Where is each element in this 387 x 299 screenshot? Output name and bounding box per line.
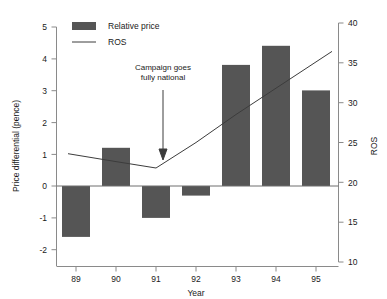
y2-axis-title: ROS (369, 136, 379, 155)
x-axis: 89 90 91 92 93 94 95 Year (57, 267, 339, 299)
legend-label-relative-price: Relative price (108, 21, 160, 31)
x-tick-label: 92 (191, 274, 201, 284)
left-axis-ticks (52, 27, 57, 250)
right-tick-label: 20 (348, 178, 358, 188)
x-tick-label: 91 (151, 274, 161, 284)
x-tick-label: 89 (71, 274, 81, 284)
legend: Relative price ROS (72, 21, 160, 47)
x-tick-label: 93 (231, 274, 241, 284)
right-tick-label: 35 (348, 58, 358, 68)
left-tick-label: 4 (42, 54, 47, 64)
left-tick-label: 1 (42, 150, 47, 160)
x-axis-title: Year (187, 288, 204, 298)
bar-93 (222, 65, 250, 186)
annotation-arrow-icon (159, 90, 167, 160)
bar-92 (182, 186, 210, 196)
left-tick-label: 5 (42, 22, 47, 32)
right-axis: 40 35 30 25 20 15 10 ROS (339, 18, 380, 267)
left-tick-label: 2 (42, 118, 47, 128)
left-tick-label: -2 (39, 245, 47, 255)
left-tick-label: -1 (39, 213, 47, 223)
right-axis-ticks (339, 23, 344, 262)
bar-90 (102, 148, 130, 186)
left-axis: 5 4 3 2 1 0 -1 -2 Price differential (pe… (11, 22, 57, 266)
x-tick-label: 94 (271, 274, 281, 284)
y-axis-title: Price differential (pence) (11, 100, 21, 192)
bar-91 (142, 186, 170, 218)
bar-89 (62, 186, 90, 237)
bar-series-relative-price (62, 46, 330, 237)
annotation-line-2: fully national (141, 73, 186, 82)
left-tick-label: 0 (42, 181, 47, 191)
bar-94 (262, 46, 290, 186)
x-axis-ticks (76, 267, 316, 272)
annotation-line-1: Campaign goes (135, 63, 191, 72)
right-tick-label: 10 (348, 257, 358, 267)
right-tick-label: 15 (348, 217, 358, 227)
x-tick-label: 90 (111, 274, 121, 284)
right-tick-label: 40 (348, 18, 358, 28)
legend-label-ros: ROS (108, 37, 127, 47)
chart-container: 5 4 3 2 1 0 -1 -2 Price differential (pe… (0, 0, 387, 299)
legend-swatch-relative-price (72, 22, 96, 30)
chart-svg: 5 4 3 2 1 0 -1 -2 Price differential (pe… (0, 0, 387, 299)
bar-95 (302, 90, 330, 186)
right-tick-label: 25 (348, 138, 358, 148)
left-tick-label: 3 (42, 86, 47, 96)
x-tick-label: 95 (311, 274, 321, 284)
right-tick-label: 30 (348, 98, 358, 108)
annotation-campaign-goes-fully-national: Campaign goes fully national (135, 63, 191, 160)
